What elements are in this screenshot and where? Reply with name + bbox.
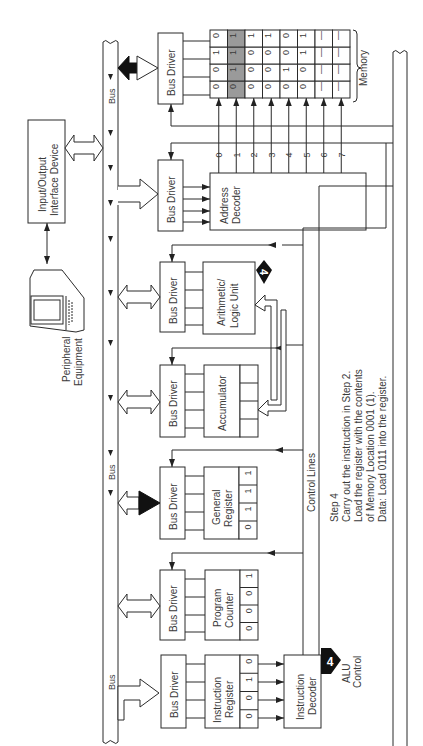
bus-driver-label: Bus Driver (168, 277, 179, 324)
register-bit: 0 (244, 713, 254, 718)
memory-cell-value: 0 (263, 67, 273, 72)
memory-array: 001001110001000101000011———————— (210, 30, 350, 173)
bus-driver-label: Bus Driver (166, 49, 177, 96)
instruction-decoder-label-line1: Instruction (295, 674, 306, 720)
general-register-bits: 0111 (239, 467, 257, 539)
alu-bus-double-arrow (118, 285, 160, 309)
program-counter-label-line1: Program (212, 589, 223, 627)
memory-cell-value: 0 (211, 67, 221, 72)
step-line-3: of Memory Location 0001 (1). (365, 391, 376, 522)
memory-cell-value: 1 (228, 67, 238, 72)
address-line-label: 5 (302, 152, 312, 157)
memory-cell-value: 1 (246, 33, 256, 38)
address-line-label: 6 (319, 152, 329, 157)
memory-cell-value: — (316, 48, 326, 57)
memory-cell-value: 1 (228, 33, 238, 38)
bus-direction-arrows (108, 74, 113, 496)
address-bus-arrow (118, 179, 158, 209)
register-bit: 1 (244, 677, 254, 682)
instruction-register-label-line1: Instruction (212, 677, 223, 723)
address-lines: 01234567 (214, 152, 347, 157)
register-bit: 1 (244, 573, 254, 578)
accumulator-bus-double-arrow (118, 390, 160, 414)
bus-driver-label: Bus Driver (168, 585, 179, 632)
memory-cell-value: 0 (281, 50, 291, 55)
instruction-register-label-line2: Register (224, 680, 235, 718)
memory-cell-value: 0 (228, 84, 238, 89)
main-bus: Bus Bus Bus (103, 41, 118, 744)
address-line-label: 1 (232, 152, 242, 157)
alu-step-badge: 4 (256, 260, 272, 284)
peripheral-label-line2: Equipment (73, 338, 84, 386)
peripheral-terminal-icon (30, 270, 84, 332)
memory-bus-arrow-black (118, 56, 137, 80)
alu-control-label-line1: ALU (341, 664, 352, 683)
alu-label-line2: Logic Unit (229, 283, 240, 328)
cpu-diagram: Bus Bus Bus Input/Output Interface Devic… (0, 0, 423, 746)
program-counter-label-line2: Counter (224, 592, 235, 628)
control-lines-label: Control Lines (306, 453, 317, 512)
register-bit: 1 (243, 470, 253, 475)
general-register-label-line2: Register (223, 489, 234, 527)
memory-cell-value: — (333, 48, 343, 57)
instruction-register-bus-arrow (118, 679, 159, 720)
memory-bus-arrow-hollow (137, 56, 158, 80)
program-counter-bits: 0001 (240, 570, 258, 640)
ir-to-decoder-arrows (258, 661, 284, 721)
address-decoder-label-line1: Address (219, 187, 230, 224)
svg-text:4: 4 (258, 269, 270, 276)
memory-label: Memory (358, 50, 369, 86)
memory-cell-value: 0 (281, 84, 291, 89)
instruction-register-bits: 0010 (240, 655, 258, 728)
program-counter-bus-double-arrow (118, 594, 160, 618)
memory-cell-value: — (316, 65, 326, 74)
register-bit: 0 (243, 524, 253, 529)
register-bit: 0 (244, 659, 254, 664)
memory-cell-value: 1 (211, 50, 221, 55)
memory-cell-value: 0 (246, 84, 256, 89)
register-bit: 1 (243, 488, 253, 493)
memory-cell-value: 0 (211, 33, 221, 38)
alu-control-step-badge: 4 (321, 648, 341, 674)
memory-cell-value: — (333, 31, 343, 40)
address-line-label: 0 (214, 152, 224, 157)
register-bit: 0 (244, 695, 254, 700)
bus-label-bottom: Bus (107, 674, 117, 690)
peripheral-label-line1: Peripheral (61, 336, 72, 382)
right-bus (393, 51, 407, 746)
io-bus-double-arrow (65, 135, 103, 161)
bus-label-top: Bus (107, 88, 117, 104)
general-register-bus-arrow-hollow (118, 491, 139, 515)
register-bit: 1 (243, 506, 253, 511)
register-bit: 0 (244, 591, 254, 596)
address-line-label: 4 (284, 152, 294, 157)
general-register-label-line1: General (211, 489, 222, 525)
io-device-label-line1: Input/Output (37, 157, 48, 212)
memory-cell-value: 1 (228, 50, 238, 55)
alu-control-label-line2: Control (352, 656, 363, 688)
step-description: Step 4 Carry out the instruction in Step… (329, 369, 388, 522)
svg-text:4: 4 (327, 655, 334, 669)
address-line-label: 2 (249, 152, 259, 157)
bus-driver-label: Bus Driver (168, 483, 179, 530)
register-bit: 0 (244, 608, 254, 613)
bus-driver-label: Bus Driver (169, 671, 180, 718)
bus-driver-label: Bus Driver (168, 380, 179, 427)
memory-cell-value: 0 (298, 84, 308, 89)
register-bit: 0 (244, 626, 254, 631)
io-device-label-line2: Interface Device (49, 143, 60, 216)
memory-cell-value: 0 (211, 84, 221, 89)
step-line-4: Data: Load 0111 into the register. (377, 376, 388, 522)
memory-cell-value: 0 (246, 67, 256, 72)
address-line-label: 7 (337, 152, 347, 157)
memory-cell-value: 0 (246, 50, 256, 55)
memory-cell-value: 0 (298, 67, 308, 72)
step-line-2: Load the register with the contents (353, 369, 364, 522)
memory-cell-value: — (316, 31, 326, 40)
address-decoder-label-line2: Decoder (231, 186, 242, 224)
general-register-bus-arrow-black (139, 491, 160, 515)
instruction-decoder-label-line2: Decoder (307, 677, 318, 715)
address-line-label: 3 (267, 152, 277, 157)
memory-cell-value: 1 (281, 67, 291, 72)
bus-to-decoder-arrows (183, 184, 210, 225)
